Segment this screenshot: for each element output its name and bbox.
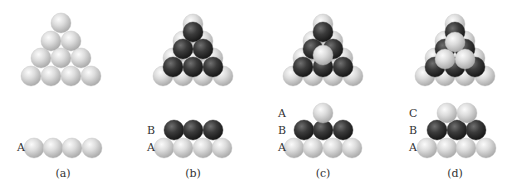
sphere-layer-top xyxy=(445,32,465,52)
side-sphere-a xyxy=(62,138,82,158)
side-sphere-b xyxy=(447,120,467,140)
sphere-layer-top xyxy=(455,49,475,69)
sphere-layer-b xyxy=(333,57,353,77)
sphere-layer-b xyxy=(183,57,203,77)
sphere-layer-b xyxy=(173,39,193,59)
side-sphere-a xyxy=(193,138,213,158)
side-view-a: A xyxy=(16,138,102,158)
sphere-layer-a xyxy=(41,31,61,51)
side-sphere-a xyxy=(212,138,232,158)
sphere-layer-a xyxy=(51,48,71,68)
panel-caption-d: (d) xyxy=(447,167,463,180)
side-sphere-a xyxy=(284,138,304,158)
side-sphere-a xyxy=(173,138,193,158)
layer-label-a: A xyxy=(146,141,156,154)
top-view-d xyxy=(415,14,495,86)
panel-a: A(a) xyxy=(16,13,102,180)
layer-label-a: A xyxy=(408,141,418,154)
sphere-layer-a xyxy=(41,66,61,86)
sphere-layer-b xyxy=(203,57,223,77)
side-sphere-c xyxy=(437,103,457,123)
layer-label-b: B xyxy=(278,124,286,137)
side-sphere-a xyxy=(456,138,476,158)
layer-label-b: B xyxy=(147,124,155,137)
sphere-layer-top xyxy=(435,49,455,69)
sphere-layer-b xyxy=(293,57,313,77)
side-view-d: ABC xyxy=(408,103,496,158)
sphere-layer-a xyxy=(71,48,91,68)
side-sphere-b xyxy=(164,120,184,140)
side-sphere-a xyxy=(24,138,44,158)
side-view-c: ABA xyxy=(277,103,362,158)
layer-label-b: B xyxy=(409,124,417,137)
close-packing-figure: A(a)AB(b)ABA(c)ABC(d) xyxy=(0,0,507,189)
side-sphere-a xyxy=(154,138,174,158)
side-view-b: AB xyxy=(146,120,232,158)
panel-caption-a: (a) xyxy=(55,167,70,180)
top-view-a xyxy=(21,13,101,86)
side-sphere-b xyxy=(427,120,447,140)
layer-label-a: A xyxy=(277,141,287,154)
layer-label-a: A xyxy=(16,141,26,154)
side-sphere-a xyxy=(417,138,437,158)
sphere-layer-a xyxy=(61,66,81,86)
side-sphere-a xyxy=(82,138,102,158)
side-sphere-a xyxy=(313,103,333,123)
sphere-layer-a xyxy=(61,31,81,51)
side-sphere-a xyxy=(437,138,457,158)
sphere-layer-a xyxy=(31,48,51,68)
side-sphere-a xyxy=(303,138,323,158)
sphere-layer-b xyxy=(183,22,203,42)
sphere-layer-top xyxy=(313,45,333,65)
top-view-b xyxy=(153,14,233,86)
layer-label-c: C xyxy=(409,107,417,120)
sphere-layer-b xyxy=(163,57,183,77)
sphere-layer-a xyxy=(81,66,101,86)
side-sphere-c xyxy=(457,103,477,123)
panel-b: AB(b) xyxy=(146,14,233,180)
side-sphere-b xyxy=(203,120,223,140)
sphere-layer-b xyxy=(193,39,213,59)
panel-d: ABC(d) xyxy=(408,14,496,180)
side-sphere-a xyxy=(476,138,496,158)
layer-label-a: A xyxy=(277,107,287,120)
side-sphere-a xyxy=(323,138,343,158)
sphere-layer-a xyxy=(21,66,41,86)
side-sphere-a xyxy=(43,138,63,158)
panel-c: ABA(c) xyxy=(277,14,363,180)
side-sphere-b xyxy=(333,120,353,140)
sphere-packing-diagram: A(a)AB(b)ABA(c)ABC(d) xyxy=(0,0,507,189)
side-sphere-b xyxy=(294,120,314,140)
sphere-layer-a xyxy=(51,13,71,33)
sphere-layer-b xyxy=(313,22,333,42)
panel-caption-b: (b) xyxy=(185,167,201,180)
top-view-c xyxy=(283,14,363,86)
side-sphere-b xyxy=(183,120,203,140)
panel-caption-c: (c) xyxy=(316,167,331,180)
side-sphere-a xyxy=(342,138,362,158)
